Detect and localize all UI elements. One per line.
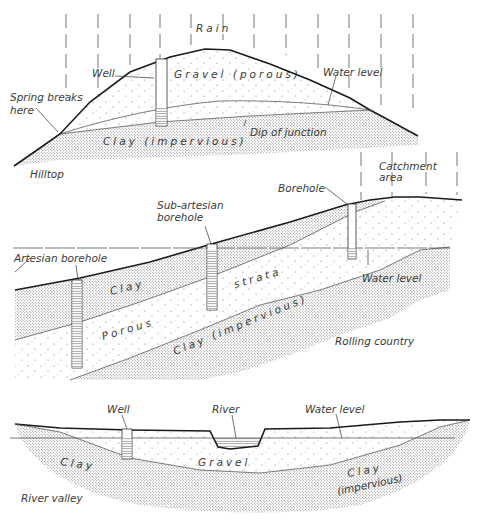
panel-title-hilltop: Hilltop <box>30 168 64 180</box>
spring-leader <box>36 108 58 132</box>
sub-artesian-water <box>208 249 217 310</box>
sub-artesian-leader <box>205 226 211 244</box>
river-leader <box>232 415 236 438</box>
well-label: Well <box>92 67 115 79</box>
sub-artesian-label-line2: borehole <box>157 211 203 223</box>
artesian-label: Artesian borehole <box>13 252 107 264</box>
valley-well-leader <box>122 415 127 429</box>
diagram-canvas: Rain Well Gravel (porous) Water level Sp… <box>0 0 482 521</box>
sub-artesian-label-line1: Sub-artesian <box>157 199 224 211</box>
spring-label-line2: here <box>10 104 34 116</box>
dip-label: Dip of junction <box>250 126 327 138</box>
panel-river-valley: Well River Water level Clay Gravel Clay … <box>10 403 470 513</box>
artesian-water <box>73 283 82 368</box>
valley-well-label: Well <box>107 403 130 415</box>
water-level-label: Water level <box>362 272 422 284</box>
water-level-label: Water level <box>323 66 383 78</box>
panel-rolling-country: Catchment area Borehole Sub-artesian bor… <box>13 152 462 380</box>
clay-label: Clay (impervious) <box>103 135 247 147</box>
borehole-leader <box>325 187 347 204</box>
rain-label: Rain <box>196 22 231 34</box>
valley-well-water <box>123 438 132 459</box>
groundwater-diagram: Rain Well Gravel (porous) Water level Sp… <box>0 0 482 521</box>
well-water <box>157 108 167 126</box>
valley-water-level-label: Water level <box>305 403 365 415</box>
river-label: River <box>212 403 240 415</box>
valley-gravel-label: Gravel <box>198 456 250 468</box>
panel-title-rolling-country: Rolling country <box>335 335 415 347</box>
gravel-label: Gravel (porous) <box>174 68 301 80</box>
spring-label-line1: Spring breaks <box>10 91 83 103</box>
panel-title-river-valley: River valley <box>21 492 83 504</box>
borehole-water <box>349 248 356 259</box>
catchment-label-line2: area <box>379 171 403 183</box>
panel-hilltop: Rain Well Gravel (porous) Water level Sp… <box>10 14 418 180</box>
borehole-label: Borehole <box>278 182 325 194</box>
